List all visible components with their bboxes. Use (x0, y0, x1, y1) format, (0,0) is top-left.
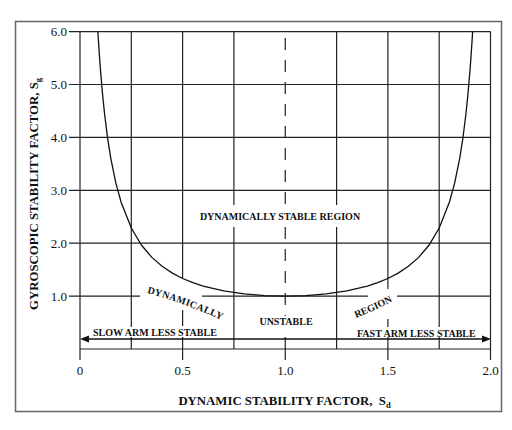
y-axis-title: GYROSCOPIC STABILITY FACTOR, Sg (27, 77, 43, 310)
x-axis-title: DYNAMIC STABILITY FACTOR, Sd (178, 394, 391, 410)
y-tick-labels: 1.0 2.0 3.0 4.0 5.0 6.0 (51, 24, 67, 304)
dynamically-label-path: DYNAMICALLY (146, 284, 225, 322)
x-tick-label: 1.5 (380, 363, 396, 378)
stability-chart: 1.0 2.0 3.0 4.0 5.0 6.0 0 0.5 1.0 1.5 2.… (0, 0, 512, 430)
dynamically-label: DYNAMICALLY (146, 284, 225, 322)
unstable-label: UNSTABLE (259, 316, 312, 327)
arrow-left-icon (80, 336, 89, 343)
y-tick-label: 2.0 (51, 236, 67, 251)
y-tick-label: 4.0 (51, 130, 67, 145)
arrow-right-icon (482, 336, 491, 343)
x-tick-label: 1.0 (277, 363, 293, 378)
horizontal-gridlines (69, 32, 491, 349)
stable-region-label: DYNAMICALLY STABLE REGION (200, 211, 361, 222)
y-axis-title-subscript: g (33, 77, 43, 82)
region-label: REGION (353, 293, 395, 320)
x-axis-title-main: DYNAMIC STABILITY FACTOR, S (178, 394, 386, 408)
y-tick-label: 5.0 (51, 77, 67, 92)
x-tick-labels: 0 0.5 1.0 1.5 2.0 (77, 363, 499, 378)
fast-arm-label: FAST ARM LESS STABLE (357, 328, 476, 339)
y-tick-label: 3.0 (51, 183, 67, 198)
x-tick-label: 0 (77, 363, 84, 378)
region-label-path: REGION (353, 293, 395, 320)
y-tick-label: 1.0 (51, 289, 67, 304)
x-axis-title-subscript: d (386, 400, 391, 410)
x-tick-label: 0.5 (174, 363, 190, 378)
slow-arm-label: SLOW ARM LESS STABLE (93, 327, 217, 338)
y-tick-label: 6.0 (51, 24, 67, 39)
y-axis-title-main: GYROSCOPIC STABILITY FACTOR, S (27, 82, 41, 310)
x-tick-label: 2.0 (482, 363, 498, 378)
